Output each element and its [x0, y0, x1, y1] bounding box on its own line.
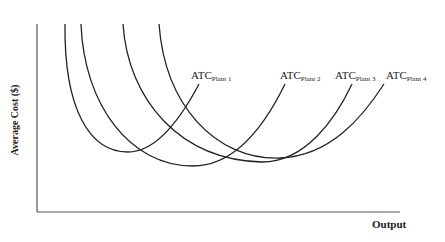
chart-canvas: [0, 0, 445, 242]
atc-plant-2-label-sub: Plant 2: [301, 75, 321, 83]
atc-plant-3-label-sub: Plant 3: [356, 75, 376, 83]
atc-plant-4-curve: [159, 24, 384, 158]
atc-plant-4-label: ATCPlant 4: [386, 69, 426, 83]
atc-plant-4-label-main: ATC: [386, 69, 407, 81]
atc-plant-1-curve: [65, 24, 199, 152]
atc-plant-3-curve: [123, 24, 352, 162]
y-axis-label: Average Cost ($): [9, 85, 20, 156]
atc-plant-3-label-main: ATC: [335, 69, 356, 81]
atc-plant-1-label: ATCPlant 1: [191, 69, 231, 83]
atc-plant-2-label: ATCPlant 2: [280, 69, 320, 83]
atc-plant-1-label-sub: Plant 1: [212, 75, 232, 83]
atc-plant-3-label: ATCPlant 3: [335, 69, 375, 83]
atc-plant-4-label-sub: Plant 4: [407, 75, 427, 83]
atc-plant-2-curve: [81, 24, 285, 166]
atc-plant-1-label-main: ATC: [191, 69, 212, 81]
x-axis-label: Output: [372, 218, 406, 230]
atc-plant-2-label-main: ATC: [280, 69, 301, 81]
